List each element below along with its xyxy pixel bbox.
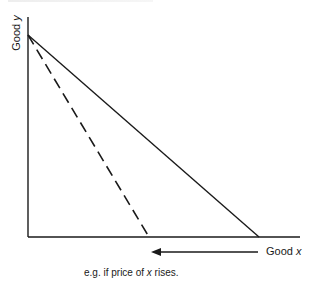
- budget-line-diagram: [0, 0, 316, 285]
- x-axis-label: Good x: [266, 245, 301, 257]
- y-axis-variable: y: [10, 15, 22, 21]
- original-budget-line: [28, 35, 259, 237]
- x-axis-label-text: Good: [266, 245, 296, 257]
- x-axis-variable: x: [296, 245, 302, 257]
- y-axis-label: Good y: [10, 15, 22, 50]
- y-axis-label-text: Good: [10, 21, 22, 51]
- caption: e.g. if price of x rises.: [84, 267, 178, 278]
- caption-suffix: rises.: [152, 267, 179, 278]
- arrow-left-icon: [151, 248, 161, 256]
- new-budget-line-dashed: [28, 35, 149, 237]
- caption-prefix: e.g. if price of: [84, 267, 147, 278]
